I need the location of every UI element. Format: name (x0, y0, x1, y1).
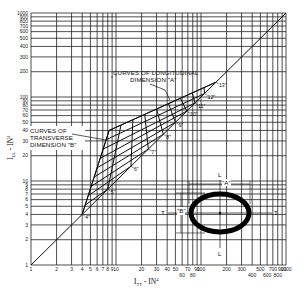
size-label: 5" (111, 189, 116, 195)
size-label: 6" (134, 166, 139, 172)
size-label: 10" (190, 111, 198, 117)
x-tick-label: 6 (96, 266, 99, 272)
size-label: 9" (178, 122, 183, 128)
size-label: 7" (151, 149, 156, 155)
longitudinal-curve (85, 189, 108, 205)
x-tick-label: 80 (190, 272, 196, 278)
y-tick-label: 400 (20, 43, 29, 49)
x-tick-label: 50 (173, 266, 179, 272)
x-tick-label: 10 (113, 266, 119, 272)
y-tick-label: 100 (20, 94, 29, 100)
x-axis-ticks: 1234567891020304050607080901002003004005… (30, 266, 292, 278)
x-tick-label: 4 (81, 266, 84, 272)
y-tick-label: 30 (22, 138, 28, 144)
size-label: 4" (85, 214, 90, 220)
transverse-annotation: CURVES OF TRANSVERSE DIMENSION "B" (29, 126, 106, 150)
center-point (219, 212, 221, 214)
longitudinal-annotation-line1: CURVES OF LONGITUDINAL (113, 69, 199, 76)
y-tick-label: 40 (22, 127, 28, 133)
size-label: 11" (198, 103, 205, 109)
x-tick-label: 600 (263, 272, 272, 278)
longitudinal-curve (100, 111, 187, 158)
x-tick-label: 100 (197, 266, 206, 272)
y-tick-label: 1 (25, 262, 28, 268)
y-tick-label: 50 (22, 119, 28, 125)
x-tick-label: 60 (179, 272, 185, 278)
x-tick-label: 1 (30, 266, 33, 272)
y-tick-label: 10 (22, 178, 28, 184)
x-tick-label: 3 (70, 266, 73, 272)
y-axis-ticks: 1234567891020304050607080901002003004005… (17, 10, 28, 268)
x-tick-label: 8 (106, 266, 109, 272)
transverse-curve (108, 125, 121, 189)
x-tick-label: 20 (139, 266, 145, 272)
longitudinal-annotation-line2: DIMENSION "A" (130, 76, 177, 83)
inset-label-B: "B" (177, 207, 186, 214)
x-axis-label: ITT - IN4 (134, 277, 159, 287)
x-tick-label: 400 (248, 272, 257, 278)
y-tick-label: 300 (20, 54, 29, 60)
inset-label-T-right: T (274, 209, 278, 216)
y-tick-label: 20 (22, 152, 28, 158)
y-tick-label: 500 (20, 35, 29, 41)
inset-label-A: "A" (222, 179, 231, 186)
y-tick-label: 3 (25, 222, 28, 228)
y-tick-label: 1000 (17, 10, 28, 16)
inset-label-L-bottom: L (218, 250, 222, 257)
x-tick-label: 7 (101, 266, 104, 272)
x-tick-label: 5 (89, 266, 92, 272)
transverse-annotation-line2: TRANSVERSE (30, 134, 73, 141)
x-tick-label: 40 (164, 266, 170, 272)
y-tick-label: 600 (20, 28, 29, 34)
y-tick-label: 6 (25, 196, 28, 202)
x-tick-label: 200 (222, 266, 231, 272)
x-tick-label: 800 (274, 272, 283, 278)
inset-label-L-top: L (218, 171, 222, 178)
x-tick-label: 1000 (280, 266, 291, 272)
y-tick-label: 60 (22, 112, 28, 118)
y-tick-label: 5 (25, 203, 28, 209)
size-label: 13" (219, 82, 227, 88)
log-log-chart: 1234567891020304050607080901002003004005… (0, 0, 306, 296)
y-axis-label: ILL - IN4 (6, 135, 16, 160)
transverse-curve (82, 130, 109, 214)
x-tick-label: 2 (55, 266, 58, 272)
y-tick-label: 200 (20, 68, 29, 74)
y-tick-label: 4 (25, 211, 28, 217)
inset-label-T-left: T (161, 209, 165, 216)
x-tick-label: 30 (154, 266, 160, 272)
transverse-annotation-line3: DIMENSION "B" (30, 141, 77, 148)
x-tick-label: 300 (237, 266, 246, 272)
size-label: 12" (208, 94, 216, 100)
y-tick-label: 2 (25, 236, 28, 242)
size-label: 8" (166, 134, 171, 140)
transverse-annotation-line1: CURVES OF (30, 127, 67, 134)
y-axis-label-group: ILL - IN4 (6, 135, 16, 160)
